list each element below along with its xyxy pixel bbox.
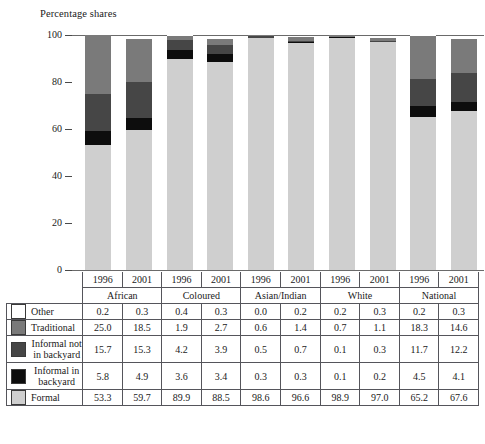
bar-segment-formal — [126, 130, 152, 270]
table-cell-value: 98.9 — [321, 390, 360, 406]
bar-national-2001[interactable] — [451, 35, 477, 270]
table-cell-value: 0.2 — [83, 304, 122, 320]
table-cell-value: 0.2 — [399, 304, 438, 320]
table-header-year: 1996 — [241, 272, 281, 288]
table-cell-value: 1.9 — [162, 320, 201, 336]
bar-segment-informal-not-in-backyard — [85, 94, 111, 131]
table-cell-value: 88.5 — [201, 390, 240, 406]
table-cell-value: 2.7 — [201, 320, 240, 336]
table-cell-value: 3.6 — [162, 363, 201, 390]
table-cell-value: 0.2 — [360, 363, 399, 390]
bar-segment-formal — [248, 38, 274, 270]
y-axis-tick-mark — [65, 270, 72, 271]
table-cell-value: 59.7 — [122, 390, 161, 406]
table-cell-value: 4.1 — [439, 363, 479, 390]
bar-segment-formal — [288, 43, 314, 270]
table-cell-value: 18.5 — [122, 320, 161, 336]
y-axis-tick-label: 20 — [52, 218, 62, 228]
bar-coloured-2001[interactable] — [207, 35, 233, 270]
bar-segment-informal-in-backyard — [410, 106, 436, 117]
table-cell-value: 89.9 — [162, 390, 201, 406]
table-row: Informal not in backyard15.715.34.23.90.… — [7, 336, 479, 363]
y-axis-tick-mark — [65, 176, 72, 177]
bar-african-1996[interactable] — [85, 35, 111, 270]
table-cell-value: 0.2 — [281, 304, 321, 320]
table-cell-value: 3.4 — [201, 363, 240, 390]
bar-white-1996[interactable] — [329, 35, 355, 270]
legend-entry[interactable]: Informal in backyard — [7, 363, 83, 390]
table-header-group: Coloured — [162, 288, 241, 304]
legend-swatch-icon — [11, 342, 26, 357]
bar-segment-traditional — [451, 39, 477, 73]
bar-segment-formal — [207, 62, 233, 270]
bar-segment-informal-in-backyard — [126, 118, 152, 130]
bar-segment-informal-not-in-backyard — [207, 45, 233, 54]
table-cell-value: 14.6 — [439, 320, 479, 336]
table-cell-value: 0.4 — [162, 304, 201, 320]
table-cell-value: 53.3 — [83, 390, 122, 406]
table-cell-value: 0.1 — [321, 336, 360, 363]
bar-segment-informal-not-in-backyard — [410, 79, 436, 106]
bar-segment-formal — [410, 117, 436, 270]
y-axis-tick-label: 80 — [52, 77, 62, 87]
bar-african-2001[interactable] — [126, 35, 152, 270]
table-header-group: White — [321, 288, 400, 304]
x-axis-tick-mark — [176, 270, 184, 271]
table-cell-value: 0.3 — [201, 304, 240, 320]
bar-segment-formal — [451, 111, 477, 270]
y-axis-tick-mark — [65, 223, 72, 224]
legend-entry[interactable]: Informal not in backyard — [7, 336, 83, 363]
bar-segment-traditional — [410, 36, 436, 79]
legend-swatch-icon — [11, 390, 26, 405]
table-cell-value: 0.3 — [122, 304, 161, 320]
legend-entry[interactable]: Traditional — [7, 320, 83, 336]
table-cell-value: 1.4 — [281, 320, 321, 336]
legend-label: Other — [31, 306, 54, 317]
table-header-year: 2001 — [281, 272, 321, 288]
legend-swatch-icon — [11, 320, 26, 335]
table-cell-value: 97.0 — [360, 390, 399, 406]
table-header-group: National — [399, 288, 478, 304]
table-cell-value: 5.8 — [83, 363, 122, 390]
legend-label: Informal not in backyard — [31, 338, 82, 360]
x-axis-tick-mark — [419, 270, 427, 271]
x-axis-tick-mark — [135, 270, 143, 271]
plot-area — [78, 35, 484, 270]
y-axis: 020406080100 — [30, 35, 72, 270]
bar-coloured-1996[interactable] — [167, 35, 193, 270]
bar-asian-indian-2001[interactable] — [288, 35, 314, 270]
table-corner-spacer — [7, 288, 83, 304]
table-header-groups: AfricanColouredAsian/IndianWhiteNational — [7, 288, 479, 304]
bar-segment-formal — [370, 42, 396, 270]
table-cell-value: 11.7 — [399, 336, 438, 363]
x-axis-tick-mark — [460, 270, 468, 271]
legend-entry[interactable]: Other — [7, 304, 83, 320]
table-header-year: 1996 — [162, 272, 201, 288]
x-axis-tick-mark — [297, 270, 305, 271]
legend-entry[interactable]: Formal — [7, 390, 83, 406]
x-axis-tick-mark — [257, 270, 265, 271]
bar-white-2001[interactable] — [370, 35, 396, 270]
table-cell-value: 0.5 — [241, 336, 281, 363]
table-cell-value: 0.3 — [360, 336, 399, 363]
table-cell-value: 4.9 — [122, 363, 161, 390]
table-cell-value: 0.6 — [241, 320, 281, 336]
table-cell-value: 65.2 — [399, 390, 438, 406]
table-row: Informal in backyard5.84.93.63.40.30.30.… — [7, 363, 479, 390]
table-cell-value: 0.7 — [281, 336, 321, 363]
legend-label: Traditional — [31, 322, 75, 333]
bar-segment-informal-not-in-backyard — [167, 40, 193, 50]
bar-segment-informal-in-backyard — [167, 50, 193, 58]
table-header-year: 2001 — [439, 272, 479, 288]
table-cell-value: 3.9 — [201, 336, 240, 363]
bar-national-1996[interactable] — [410, 35, 436, 270]
bar-segment-informal-in-backyard — [451, 102, 477, 112]
table-cell-value: 12.2 — [439, 336, 479, 363]
bar-segment-traditional — [126, 39, 152, 82]
y-axis-title: Percentage shares — [40, 8, 117, 19]
table-header-year: 1996 — [83, 272, 122, 288]
table-header-year: 2001 — [201, 272, 240, 288]
legend-swatch-icon — [11, 304, 26, 319]
bar-segment-formal — [167, 59, 193, 270]
bar-asian-indian-1996[interactable] — [248, 35, 274, 270]
